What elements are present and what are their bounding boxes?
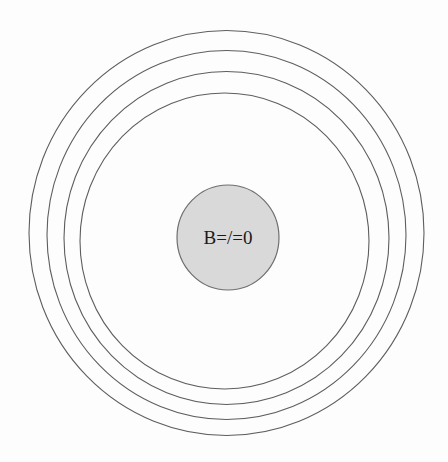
concentric-rings-diagram: B=/=0	[0, 0, 448, 462]
central-disk-label: B=/=0	[204, 227, 253, 248]
diagram-canvas: B=/=0	[0, 0, 448, 462]
